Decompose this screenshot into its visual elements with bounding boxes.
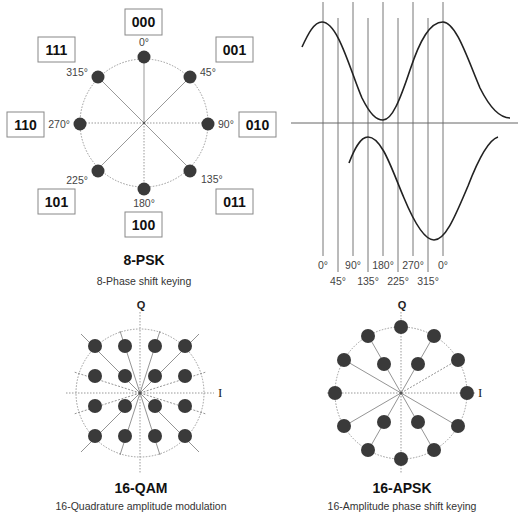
psk8-box-100: 100 (125, 212, 162, 237)
psk8-deg-270: 270° (48, 118, 70, 130)
psk8-bits-100: 100 (132, 217, 156, 233)
psk8-deg-135: 135° (201, 173, 223, 185)
qam16-i-label: I (218, 385, 222, 400)
psk8-point-45 (184, 71, 197, 84)
phase-label-225: 225° (387, 275, 409, 287)
diagram-canvas: 0° 45° 90° 135° 180° 225° 270° 315° 000 … (0, 0, 518, 517)
apsk16-origin (400, 392, 403, 395)
psk8-box-001: 001 (216, 37, 253, 62)
psk8-deg-0: 0° (139, 36, 149, 48)
psk8-box-000: 000 (125, 9, 162, 35)
psk8-point-135 (184, 165, 197, 178)
psk8-bits-001: 001 (223, 42, 247, 58)
psk8-bits-000: 000 (132, 14, 156, 30)
psk8-constellation: 0° 45° 90° 135° 180° 225° 270° 315° 000 … (7, 9, 276, 287)
psk8-title: 8-PSK (123, 252, 164, 268)
psk8-deg-45: 45° (200, 66, 216, 78)
psk8-bits-010: 010 (246, 117, 270, 133)
psk8-deg-315: 315° (66, 66, 88, 78)
phase-label-90: 90° (345, 259, 361, 271)
phase-label-45: 45° (330, 275, 346, 287)
apsk16-q-label: Q (398, 299, 407, 311)
phase-label-0: 0° (318, 259, 328, 271)
psk8-bits-111: 111 (46, 42, 68, 58)
phase-label-360: 0° (438, 259, 448, 271)
psk8-spoke-225 (99, 123, 144, 168)
psk8-box-111: 111 (38, 37, 75, 62)
psk8-point-180 (138, 183, 151, 196)
psk8-subtitle: 8-Phase shift keying (97, 275, 192, 287)
phase-label-180: 180° (372, 259, 394, 271)
apsk16-constellation: Q I 16-APSK 16-Amplitude phase shift key… (327, 299, 482, 512)
psk8-spoke-135 (144, 123, 189, 168)
psk8-box-011: 011 (216, 189, 253, 214)
psk8-point-315 (92, 71, 105, 84)
qam16-title: 16-QAM (115, 480, 168, 496)
psk8-point-270 (74, 118, 87, 131)
apsk16-i-label: I (478, 385, 482, 400)
phase-label-270: 270° (402, 259, 424, 271)
apsk16-subtitle: 16-Amplitude phase shift keying (328, 500, 477, 512)
psk8-point-225 (92, 165, 105, 178)
qam16-subtitle: 16-Quadrature amplitude modulation (55, 500, 226, 512)
psk8-deg-90: 90° (218, 118, 234, 130)
psk8-bits-011: 011 (223, 194, 246, 210)
carrier-wave-upper (302, 22, 510, 120)
apsk16-title: 16-APSK (372, 480, 431, 496)
qam16-constellation: Q I 16-QAM 16-Quadrature amplitude modul… (55, 299, 226, 512)
psk8-deg-180: 180° (133, 197, 155, 209)
phase-label-135: 135° (357, 275, 379, 287)
psk8-spoke-45 (144, 78, 189, 123)
psk8-spoke-315 (99, 78, 144, 123)
psk8-point-0 (138, 51, 151, 64)
carrier-wave-lower (349, 137, 498, 240)
psk8-point-90 (202, 118, 215, 131)
psk8-box-101: 101 (38, 189, 75, 214)
psk8-box-110: 110 (7, 112, 44, 137)
phase-label-315: 315° (417, 275, 439, 287)
psk8-deg-225: 225° (66, 174, 88, 186)
psk8-bits-101: 101 (45, 194, 69, 210)
psk8-origin (143, 122, 145, 124)
qam16-origin (139, 392, 142, 395)
psk8-box-010: 010 (239, 112, 276, 137)
qam16-q-label: Q (137, 299, 146, 311)
phase-waveform: 0° 90° 180° 270° 0° 45° 135° 225° 315° (291, 2, 518, 287)
psk8-bits-110: 110 (14, 117, 37, 133)
